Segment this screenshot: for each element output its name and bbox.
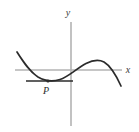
y-axis-label: y	[65, 7, 71, 18]
point-P-marker	[46, 79, 49, 82]
point-P-label: P	[42, 85, 49, 96]
math-figure-container: y x P	[0, 0, 139, 132]
x-axis-label: x	[125, 64, 131, 75]
